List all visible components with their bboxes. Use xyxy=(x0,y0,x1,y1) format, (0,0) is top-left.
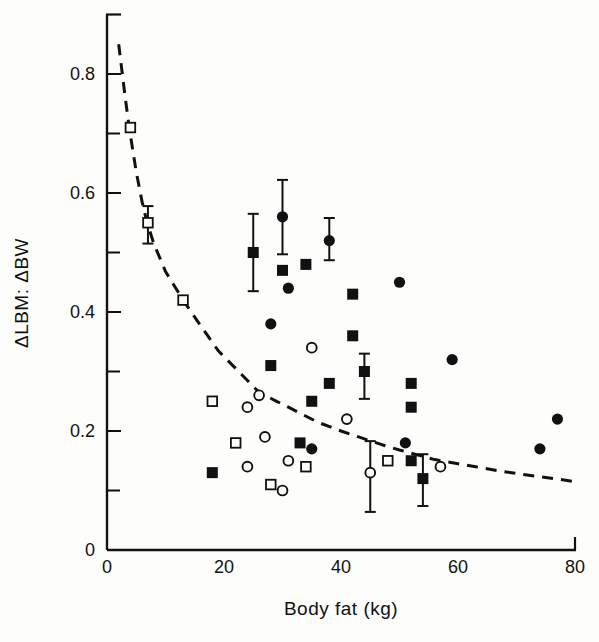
x-tick-label: 20 xyxy=(214,557,234,577)
scatter-plot-figure: ΔLBM: ΔBW Body fat (kg) 00.20.40.60.8020… xyxy=(0,0,599,642)
x-tick-label: 0 xyxy=(102,557,112,577)
open-square-marker xyxy=(143,218,153,228)
x-axis-title: Body fat (kg) xyxy=(284,598,398,619)
x-tick-label: 60 xyxy=(448,557,468,577)
filled-square-marker xyxy=(359,366,370,377)
filled-square-marker xyxy=(300,259,311,270)
open-square-marker xyxy=(126,123,136,133)
filled-circle-marker xyxy=(552,414,563,425)
y-tick-label: 0.2 xyxy=(70,421,95,441)
filled-circle-marker xyxy=(447,354,458,365)
filled-square-marker xyxy=(295,437,306,448)
filled-circle-marker xyxy=(400,437,411,448)
chart-canvas: ΔLBM: ΔBW Body fat (kg) 00.20.40.60.8020… xyxy=(0,0,599,642)
filled-square-marker xyxy=(265,360,276,371)
x-tick-label: 80 xyxy=(565,557,585,577)
filled-square-marker xyxy=(406,455,417,466)
filled-circle-marker xyxy=(306,443,317,454)
filled-square-marker xyxy=(277,265,288,276)
open-square-marker xyxy=(178,295,188,305)
open-circle-marker xyxy=(307,343,317,353)
open-square-marker xyxy=(301,462,311,472)
filled-square-marker xyxy=(406,402,417,413)
filled-circle-marker xyxy=(324,235,335,246)
open-circle-marker xyxy=(254,390,264,400)
filled-square-marker xyxy=(306,396,317,407)
filled-square-marker xyxy=(207,467,218,478)
open-square-marker xyxy=(266,480,276,490)
filled-circle-marker xyxy=(265,318,276,329)
filled-circle-marker xyxy=(394,277,405,288)
filled-square-marker xyxy=(324,378,335,389)
filled-square-marker xyxy=(347,330,358,341)
open-square-marker xyxy=(231,438,241,448)
open-circle-marker xyxy=(260,432,270,442)
open-circle-marker xyxy=(342,414,352,424)
filled-circle-marker xyxy=(283,283,294,294)
filled-square-marker xyxy=(347,289,358,300)
y-tick-label: 0 xyxy=(85,540,95,560)
open-circle-marker xyxy=(243,462,253,472)
open-circle-marker xyxy=(243,402,253,412)
open-circle-marker xyxy=(365,468,375,478)
filled-square-marker xyxy=(417,473,428,484)
filled-circle-marker xyxy=(534,443,545,454)
y-axis-title: ΔLBM: ΔBW xyxy=(11,238,32,348)
open-circle-marker xyxy=(436,462,446,472)
y-tick-label: 0.6 xyxy=(70,183,95,203)
x-tick-label: 40 xyxy=(331,557,351,577)
open-square-marker xyxy=(383,456,393,466)
filled-circle-marker xyxy=(277,211,288,222)
open-square-marker xyxy=(208,396,218,406)
open-circle-marker xyxy=(283,456,293,466)
filled-square-marker xyxy=(406,378,417,389)
y-tick-label: 0.4 xyxy=(70,302,95,322)
y-tick-label: 0.8 xyxy=(70,64,95,84)
filled-square-marker xyxy=(248,247,259,258)
open-circle-marker xyxy=(278,486,288,496)
